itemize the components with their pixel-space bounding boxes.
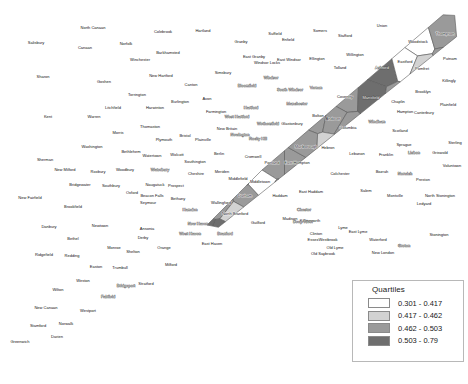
town-label: East Granby (243, 54, 265, 59)
town-label: Tolland (334, 65, 347, 70)
town-label: New Britain (217, 126, 237, 131)
town-label: Deep River (293, 219, 314, 224)
town-label: Farmington (206, 109, 226, 114)
town-label: Manchester (287, 101, 309, 106)
town-label: East Haven (202, 241, 223, 246)
town-label: Bethany (171, 196, 186, 201)
town-label: Warren (88, 114, 101, 119)
town-label: Wallingford (211, 200, 231, 205)
town-label: Weston (76, 278, 90, 283)
town-label: Chaplin (391, 99, 405, 104)
town-label: North Branford (222, 211, 248, 216)
town-label: Winchester (130, 57, 151, 62)
legend-label: 0.503 - 0.79 (398, 336, 438, 345)
town-label: Washington (82, 144, 103, 149)
town-label: Fairfield (101, 294, 115, 299)
town-label: North Stonington (425, 193, 455, 198)
town-label: Pomfret (415, 66, 430, 71)
town-label: Suffield (268, 31, 281, 36)
town-label: Plainfield (440, 102, 456, 107)
town-label: Stonington (429, 232, 448, 237)
town-label: Griswold (432, 150, 448, 155)
town-label: Salem (360, 188, 372, 193)
town-label: Burlington (171, 99, 189, 104)
legend-label: 0.417 - 0.462 (398, 311, 442, 320)
town-label: New London (372, 250, 394, 255)
town-label: Norwich (398, 171, 412, 176)
town-label: Sherman (37, 157, 53, 162)
town-label: Ridgefield (35, 252, 53, 257)
town-label: Torrington (128, 92, 146, 97)
town-label: Orange (157, 245, 171, 250)
town-label: Berlin (214, 151, 224, 156)
legend-item: 0.462 - 0.503 (368, 322, 458, 335)
town-label: Canton (185, 82, 198, 87)
town-label: Morris (112, 130, 123, 135)
town-label: West Haven (179, 231, 201, 236)
town-label: Woodbury (116, 167, 134, 172)
town-label: Trumbull (112, 265, 128, 270)
town-label: Bethlehem (121, 149, 141, 154)
legend-swatch (368, 298, 390, 308)
town-label: Southington (184, 159, 205, 164)
town-label: Portland (265, 160, 280, 165)
town-label: Litchfield (105, 105, 121, 110)
town-label: Hampton (397, 109, 413, 114)
town-label: Sterling (448, 140, 462, 145)
town-label: Sharon (37, 74, 50, 79)
town-label: Voluntown (443, 163, 461, 168)
town-label: Simsbury (215, 70, 232, 75)
town-label: East Windsor (277, 57, 301, 62)
town-label: Newtown (92, 223, 108, 228)
town-label: New Hartford (149, 73, 173, 78)
town-label: Avon (202, 96, 211, 101)
town-label: Monroe (107, 245, 121, 250)
town-label: Thompson (436, 31, 455, 36)
town-label: Coventry (337, 94, 353, 99)
legend-swatch (368, 336, 390, 346)
town-label: Westbrook (318, 237, 337, 242)
town-label: Canterbury (414, 110, 434, 115)
town-label: Chester (297, 207, 312, 212)
town-label: Oxford (126, 190, 138, 195)
town-label: Branford (217, 231, 232, 236)
town-label: Guilford (251, 220, 265, 225)
town-label: Bethel (67, 236, 78, 241)
town-label: Durham (238, 193, 253, 198)
town-label: East Hampton (284, 160, 309, 165)
town-label: Watertown (143, 153, 162, 158)
town-label: Brookfield (64, 204, 82, 209)
town-label: West Hartford (225, 114, 250, 119)
town-label: Haddam (272, 193, 288, 198)
town-label: Windham (369, 119, 387, 124)
town-label: Hartford (244, 105, 258, 110)
legend-label: 0.301 - 0.417 (398, 299, 442, 308)
town-label: Cromwell (245, 154, 262, 159)
town-label: Waterford (369, 237, 386, 242)
town-label: Waterbury (151, 167, 169, 172)
legend-swatch (368, 311, 390, 321)
town-label: Windsor (264, 75, 279, 80)
town-label: Bristol (179, 133, 190, 138)
town-label: Meriden (215, 169, 229, 174)
town-label: Bloomfield (238, 83, 257, 88)
town-label: Middlefield (228, 176, 247, 181)
town-label: Thomaston (140, 124, 160, 129)
town-label: Norwalk (59, 321, 73, 326)
town-label: Rocky Hill (249, 136, 267, 141)
town-label: New Canaan (34, 305, 57, 310)
legend-swatch (368, 323, 390, 333)
town-label: Brooklyn (415, 89, 431, 94)
town-label: Danbury (41, 224, 56, 229)
town-region[interactable]: Windham (360, 113, 361, 114)
town-label: Columbia (340, 125, 358, 130)
town-label: Killingly (442, 78, 456, 83)
town-label: Lyme (338, 225, 348, 230)
town-label: Wilton (52, 287, 63, 292)
town-label: Middletown (250, 179, 270, 184)
town-label: New Milford (54, 167, 75, 172)
town-label: Clinton (310, 231, 322, 236)
town-label: Andover (326, 116, 342, 121)
town-label: Roxbury (91, 169, 106, 174)
town-label: Salisbury (28, 40, 44, 45)
